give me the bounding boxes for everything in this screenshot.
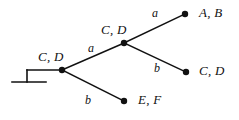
edge-label-middle-to-leaf-mid: b [154,62,160,74]
node-dot-leaf-middle [183,69,189,75]
edge-root-to-leaf-bottom [62,70,124,101]
node-dot-root [59,67,65,73]
edge-label-root-to-middle: a [88,42,94,54]
node-label-leaf-bottom: E, F [138,93,162,106]
node-dot-middle [121,40,127,46]
node-label-root: C, D [38,50,64,63]
edge-label-root-to-leaf-bottom: b [85,94,91,106]
node-label-middle: C, D [101,23,127,36]
node-dot-leaf-top [182,11,188,17]
node-label-leaf-top: A, B [199,6,223,19]
decision-tree-diagram: C, DC, DA, BC, DE, Fabab [0,0,239,120]
node-dot-leaf-bottom [121,98,127,104]
ground-symbol [12,70,62,82]
node-label-leaf-middle: C, D [199,64,225,77]
edge-label-middle-to-leaf-top: a [152,7,158,19]
